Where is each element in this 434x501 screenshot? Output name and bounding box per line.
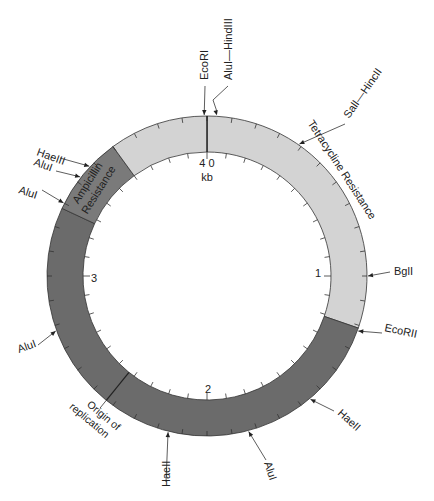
inner-tick	[134, 372, 137, 376]
plasmid-map: 4 0 kb 1 2 3 Tetracycline Resistance Amp…	[0, 0, 434, 501]
site-label-alui-1: AluI	[262, 460, 279, 482]
site-label-alui-hindiii: AluI—HindIII	[222, 18, 234, 80]
inner-tick	[320, 238, 325, 240]
inner-tick	[188, 394, 189, 399]
site-label-bgli: BglI	[394, 265, 413, 277]
inner-tick	[325, 257, 330, 258]
inner-tick	[169, 389, 171, 394]
inner-tick	[325, 295, 330, 296]
restriction-site-arrow	[213, 86, 228, 111]
kb-label-4-0: 4 0	[199, 157, 214, 169]
inner-tick	[89, 238, 94, 240]
inner-tick	[320, 313, 325, 315]
inner-tick	[226, 154, 227, 159]
inner-tick	[97, 220, 101, 222]
arrowhead-icon	[50, 331, 55, 336]
inner-tick	[303, 346, 307, 349]
inner-tick	[277, 372, 280, 376]
inner-tick	[226, 394, 227, 399]
inner-tick	[291, 188, 295, 192]
site-label-haeii-2: HaeII	[160, 461, 172, 487]
inner-tick	[261, 166, 263, 170]
inner-tick	[244, 389, 246, 394]
inner-tick	[151, 382, 153, 386]
site-label-ecorii: EcoRII	[384, 321, 419, 340]
kb-unit-label: kb	[201, 171, 213, 183]
site-label-alui-3: AluI	[17, 183, 39, 200]
inner-tick	[261, 382, 263, 386]
region-tetracycline-resistance	[207, 116, 367, 328]
inner-tick	[188, 154, 189, 159]
inner-tick	[97, 330, 101, 332]
arrowhead-icon	[249, 432, 253, 437]
kb-label-1: 1	[315, 267, 321, 279]
inner-tick	[277, 176, 280, 180]
restriction-site-arrow	[249, 432, 266, 460]
site-label-alui-2: AluI	[16, 337, 38, 355]
inner-tick	[313, 220, 317, 222]
inner-tick	[244, 158, 246, 163]
arrowhead-icon	[58, 198, 63, 202]
inner-tick	[119, 360, 123, 364]
inner-tick	[169, 158, 171, 163]
inner-tick	[291, 360, 295, 364]
arrowhead-icon	[213, 110, 217, 115]
inner-tick	[107, 346, 111, 349]
arrowhead-icon	[368, 273, 373, 277]
inner-tick	[119, 188, 123, 192]
arrowhead-icon	[75, 174, 80, 178]
site-label-haeii-1: HaeII	[336, 407, 364, 434]
site-label-sali-hincii: SalI—HincII	[341, 66, 384, 120]
inner-tick	[151, 166, 153, 170]
inner-tick	[313, 330, 317, 332]
inner-tick	[107, 203, 111, 206]
arrowhead-icon	[166, 432, 170, 437]
inner-tick	[85, 295, 90, 296]
arrowhead-icon	[202, 110, 206, 115]
inner-tick	[89, 313, 94, 315]
site-label-ecori: EcoRI	[198, 50, 210, 80]
kb-label-2: 2	[205, 383, 211, 395]
inner-tick	[85, 257, 90, 258]
inner-tick	[134, 176, 137, 180]
kb-label-3: 3	[91, 272, 97, 284]
arrowhead-icon	[358, 329, 363, 333]
inner-tick	[303, 203, 307, 206]
